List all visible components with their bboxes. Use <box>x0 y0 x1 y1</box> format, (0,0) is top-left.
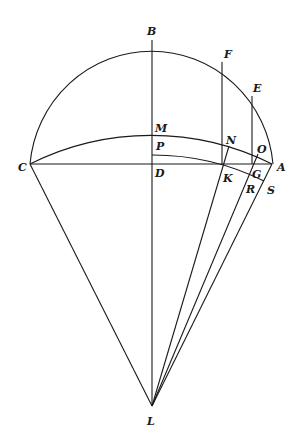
arc-PKS <box>152 155 264 181</box>
line-LN <box>152 146 229 406</box>
label-M: M <box>154 122 168 135</box>
line-LA <box>152 164 272 406</box>
label-N: N <box>225 134 237 147</box>
label-A: A <box>276 161 286 174</box>
label-F: F <box>223 48 233 61</box>
label-C: C <box>18 161 27 174</box>
label-S: S <box>267 184 275 197</box>
label-L: L <box>146 415 155 428</box>
label-K: K <box>222 172 233 185</box>
label-P: P <box>155 140 165 153</box>
label-B: B <box>146 25 156 38</box>
label-R: R <box>245 183 255 196</box>
label-G: G <box>252 168 261 181</box>
label-D: D <box>154 167 165 180</box>
line-CL <box>30 164 152 406</box>
geometric-diagram: B F E M N P O C A D G K R S L <box>0 0 301 447</box>
label-E: E <box>252 82 262 95</box>
line-LO <box>152 154 258 406</box>
label-O: O <box>257 143 267 156</box>
